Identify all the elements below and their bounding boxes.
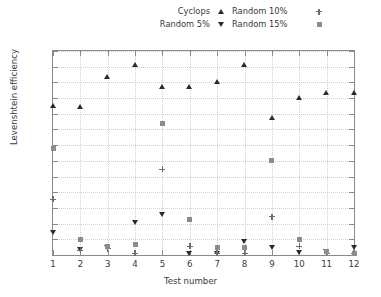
- y-axis-tick: [53, 114, 58, 115]
- legend-label-cyclops: Cyclops: [118, 5, 210, 18]
- x-axis-tick-label: 8: [233, 260, 257, 269]
- y-axis-tick: [349, 67, 354, 68]
- y-axis-tick: [53, 177, 58, 178]
- data-point-plus: [214, 250, 220, 256]
- x-axis-tick: [53, 51, 54, 56]
- data-point-triangle-down: [269, 245, 275, 250]
- gridline-horizontal: [53, 208, 354, 209]
- y-axis-tick: [349, 82, 354, 83]
- x-axis-tick: [272, 250, 273, 255]
- gridline-vertical: [190, 51, 191, 255]
- gridline-horizontal: [53, 224, 354, 225]
- data-point-square: [187, 217, 192, 222]
- legend-label-random-15: Random 15%: [232, 18, 312, 31]
- y-axis-tick: [349, 224, 354, 225]
- y-axis-tick: [349, 161, 354, 162]
- data-point-square: [105, 244, 110, 249]
- data-point-plus: [132, 250, 138, 256]
- legend-marker-triangle-down-icon: [210, 18, 232, 31]
- data-point-triangle-down: [296, 250, 302, 255]
- data-point-triangle-up: [241, 62, 247, 67]
- x-axis-tick-label: 7: [205, 260, 229, 269]
- y-axis-tick: [349, 239, 354, 240]
- gridline-vertical: [162, 51, 163, 255]
- data-point-plus: [50, 196, 56, 202]
- gridline-horizontal: [53, 239, 354, 240]
- x-axis-tick-label: 11: [315, 260, 339, 269]
- x-axis-tick-label: 10: [287, 260, 311, 269]
- data-point-square: [297, 237, 302, 242]
- gridline-vertical: [327, 51, 328, 255]
- y-axis-tick: [53, 129, 58, 130]
- data-point-plus: [159, 166, 165, 172]
- y-axis-tick: [53, 208, 58, 209]
- y-axis-tick: [53, 161, 58, 162]
- gridline-horizontal: [53, 98, 354, 99]
- gridline-horizontal: [53, 145, 354, 146]
- gridline-vertical: [108, 51, 109, 255]
- data-point-plus: [269, 214, 275, 220]
- chart-legend: Cyclops Random 10% Random 5% Random 15%: [118, 5, 326, 31]
- gridline-horizontal: [53, 161, 354, 162]
- data-point-triangle-up: [186, 84, 192, 89]
- data-point-plus: [242, 250, 248, 256]
- x-axis-tick: [354, 51, 355, 56]
- data-point-triangle-down: [241, 239, 247, 244]
- data-point-square: [352, 251, 357, 256]
- data-point-plus: [77, 247, 83, 253]
- x-axis-tick-label: 4: [123, 260, 147, 269]
- data-point-square: [133, 242, 138, 247]
- y-axis-tick: [349, 145, 354, 146]
- y-axis-tick: [53, 255, 58, 256]
- data-point-triangle-up: [323, 90, 329, 95]
- x-axis-tick: [245, 51, 246, 56]
- gridline-vertical: [299, 51, 300, 255]
- y-axis-tick: [53, 82, 58, 83]
- x-axis-tick-label: 6: [178, 260, 202, 269]
- x-axis-tick-label: 3: [96, 260, 120, 269]
- x-axis-tick: [80, 51, 81, 56]
- data-point-triangle-up: [159, 84, 165, 89]
- data-point-triangle-up: [50, 103, 56, 108]
- legend-marker-plus-icon: [312, 5, 326, 18]
- data-point-square: [324, 249, 329, 254]
- x-axis-tick: [162, 51, 163, 56]
- gridline-horizontal: [53, 82, 354, 83]
- data-point-square: [51, 146, 56, 151]
- data-point-triangle-down: [132, 220, 138, 225]
- data-point-triangle-up: [269, 115, 275, 120]
- data-point-triangle-up: [104, 74, 110, 79]
- y-axis-tick: [53, 224, 58, 225]
- data-point-triangle-up: [77, 104, 83, 109]
- data-point-triangle-down: [50, 230, 56, 235]
- data-point-triangle-up: [351, 90, 357, 95]
- data-point-square: [78, 237, 83, 242]
- gridline-horizontal: [53, 177, 354, 178]
- x-axis-tick: [190, 51, 191, 56]
- data-point-triangle-down: [351, 245, 357, 250]
- data-point-square: [160, 121, 165, 126]
- gridline-vertical: [80, 51, 81, 255]
- x-axis-tick: [135, 51, 136, 56]
- x-axis-title: Test number: [0, 276, 381, 286]
- x-axis-tick-label: 9: [260, 260, 284, 269]
- y-axis-tick: [349, 114, 354, 115]
- data-point-triangle-down: [159, 212, 165, 217]
- y-axis-tick: [53, 192, 58, 193]
- legend-marker-square-icon: [312, 18, 326, 31]
- legend-label-random-10: Random 10%: [232, 5, 312, 18]
- plot-area: 00.10.20.30.40.50.60.70.80.911.11.21.3 1…: [52, 50, 355, 256]
- y-axis-tick: [349, 129, 354, 130]
- gridline-horizontal: [53, 51, 354, 52]
- x-axis-tick: [217, 51, 218, 56]
- gridline-horizontal: [53, 114, 354, 115]
- legend-marker-triangle-up-icon: [210, 5, 232, 18]
- legend-label-random-5: Random 5%: [118, 18, 210, 31]
- x-axis-tick-label: 5: [150, 260, 174, 269]
- x-axis-tick: [53, 250, 54, 255]
- x-axis-tick: [108, 51, 109, 56]
- gridline-horizontal: [53, 192, 354, 193]
- y-axis-tick: [53, 239, 58, 240]
- data-point-plus: [296, 243, 302, 249]
- y-axis-tick: [349, 208, 354, 209]
